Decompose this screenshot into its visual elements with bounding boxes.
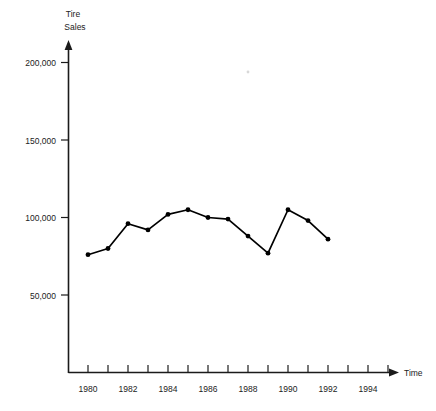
data-point [286,207,291,212]
data-point [146,228,151,233]
data-point [106,246,111,251]
data-point [206,215,211,220]
x-tick-label-1992: 1992 [319,384,338,394]
chart-canvas: Tire Sales 200,000 150,000 100,000 50,00… [0,0,436,411]
data-point [326,237,331,242]
data-point [126,221,131,226]
data-point [306,218,311,223]
y-tick-label-100000: 100,000 [25,213,56,223]
y-tick-label-200000: 200,000 [25,58,56,68]
x-tick-label-1988: 1988 [239,384,258,394]
x-tick-label-1984: 1984 [159,384,178,394]
x-axis-title: Time [404,368,423,378]
data-point [266,251,271,256]
data-point [166,212,171,217]
y-axis-title-line1: Tire [66,9,81,19]
x-tick-label-1994: 1994 [359,384,378,394]
x-tick-label-1982: 1982 [119,384,138,394]
x-tick-label-1980: 1980 [79,384,98,394]
data-point [186,207,191,212]
data-point [226,217,231,222]
chart-background [0,0,436,411]
data-point [246,234,251,239]
scan-speck [247,71,250,74]
x-tick-label-1986: 1986 [199,384,218,394]
y-axis-title-line2: Sales [64,22,85,32]
y-tick-label-150000: 150,000 [25,136,56,146]
data-point [86,252,91,257]
y-tick-label-50000: 50,000 [30,291,56,301]
x-tick-label-1990: 1990 [279,384,298,394]
line-chart: Tire Sales 200,000 150,000 100,000 50,00… [0,0,436,411]
